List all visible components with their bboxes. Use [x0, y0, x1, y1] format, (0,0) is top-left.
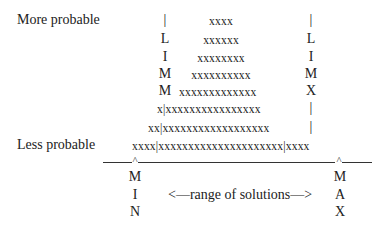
max-label-char-0: M	[334, 169, 346, 185]
min-label-char-2: N	[130, 204, 140, 220]
distribution-row-2: xxxxxx	[203, 32, 239, 48]
right-limit-char-1: L	[307, 31, 316, 47]
right-limit-char-0: |	[310, 12, 313, 28]
range-of-solutions-label: <—range of solutions—>	[168, 187, 312, 203]
label-less-probable: Less probable	[17, 137, 95, 153]
axis-rule-left	[103, 162, 132, 163]
right-limit-char-3: M	[305, 66, 317, 82]
max-label-char-1: A	[335, 187, 345, 203]
distribution-row-7: xx|xxxxxxxxxxxxxxxxxx	[148, 120, 270, 136]
distribution-row-3: xxxxxxxx	[197, 50, 245, 66]
min-marker: ^	[132, 155, 137, 165]
max-label-char-2: X	[335, 204, 345, 220]
right-limit-char-2: I	[309, 49, 314, 65]
left-limit-char-3: M	[159, 66, 171, 82]
axis-rule-right	[342, 162, 372, 163]
min-label-char-1: I	[133, 187, 138, 203]
axis-rule-middle	[138, 162, 335, 163]
max-marker: ^	[336, 155, 341, 165]
distribution-row-6: x|xxxxxxxxxxxxxxxx	[157, 101, 261, 117]
label-more-probable: More probable	[17, 12, 100, 28]
distribution-row-5: xxxxxxxxxxxxx	[179, 84, 256, 100]
right-limit-char-5: |	[310, 100, 313, 116]
right-limit-char-6: |	[310, 119, 313, 135]
distribution-row-1: xxxx	[209, 13, 233, 29]
distribution-row-8: xxxx|xxxxxxxxxxxxxxxxxxxxx|xxxx	[132, 138, 310, 154]
distribution-row-4: xxxxxxxxxx	[191, 67, 251, 83]
right-limit-char-4: X	[306, 83, 316, 99]
left-limit-char-1: L	[161, 31, 170, 47]
min-label-char-0: M	[129, 169, 141, 185]
left-limit-char-2: I	[163, 49, 168, 65]
left-limit-char-4: M	[159, 83, 171, 99]
left-limit-char-0: |	[164, 12, 167, 28]
